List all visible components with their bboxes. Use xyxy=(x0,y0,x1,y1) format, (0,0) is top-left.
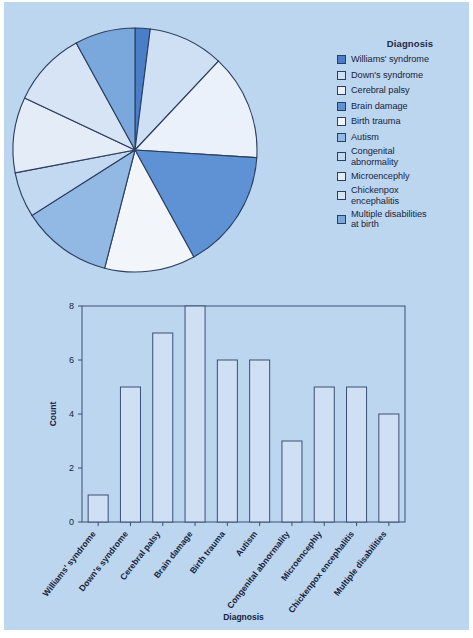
y-tick-label: 2 xyxy=(69,463,74,473)
x-tick-label: Williams' syndrome xyxy=(40,529,97,599)
bar[interactable] xyxy=(185,306,205,522)
bar-svg: 02468CountWilliams' syndromeDown's syndr… xyxy=(34,294,454,624)
legend-item-list: Williams' syndromeDown's syndromeCerebra… xyxy=(337,53,469,230)
legend-swatch-icon xyxy=(337,86,346,95)
bar[interactable] xyxy=(250,360,270,522)
pie-chart xyxy=(4,2,274,302)
x-tick-label: Congenital abnormality xyxy=(225,529,292,611)
legend-item-label: Multiple disabilities at birth xyxy=(351,209,427,230)
bar[interactable] xyxy=(153,333,173,522)
legend-swatch-icon xyxy=(337,117,346,126)
legend-item-label: Down's syndrome xyxy=(351,70,423,81)
legend-item-label: Microencephly xyxy=(351,171,410,182)
legend-item[interactable]: Chickenpox encephalitis xyxy=(337,185,469,206)
legend-item[interactable]: Cerebral palsy xyxy=(337,84,469,97)
legend-swatch-icon xyxy=(337,152,346,161)
figure-panel: Diagnosis Williams' syndromeDown's syndr… xyxy=(4,2,469,630)
pie-slice-group xyxy=(13,28,257,272)
legend-item-label: Brain damage xyxy=(351,101,408,112)
legend-item-label: Autism xyxy=(351,132,379,143)
legend-swatch-icon xyxy=(337,71,346,80)
y-tick-label: 6 xyxy=(69,355,74,365)
y-tick-label: 8 xyxy=(69,301,74,311)
legend-item-label: Birth trauma xyxy=(351,116,400,127)
x-axis-title: Diagnosis xyxy=(223,612,264,622)
x-tick-label: Chickenpox encephalitis xyxy=(286,529,356,615)
legend-swatch-icon xyxy=(337,55,346,64)
legend-item-label: Williams' syndrome xyxy=(351,54,429,65)
legend-item[interactable]: Multiple disabilities at birth xyxy=(337,209,469,230)
legend-swatch-icon xyxy=(337,102,346,111)
legend-item-label: Chickenpox encephalitis xyxy=(351,185,399,206)
bar[interactable] xyxy=(347,387,367,522)
legend: Diagnosis Williams' syndromeDown's syndr… xyxy=(337,38,469,232)
y-tick-label: 4 xyxy=(69,409,74,419)
legend-swatch-icon xyxy=(337,215,346,224)
legend-item[interactable]: Williams' syndrome xyxy=(337,53,469,66)
legend-item[interactable]: Microencephly xyxy=(337,170,469,183)
legend-swatch-icon xyxy=(337,191,346,200)
bar[interactable] xyxy=(379,414,399,522)
legend-swatch-icon xyxy=(337,172,346,181)
bar-plot-group: 02468CountWilliams' syndromeDown's syndr… xyxy=(40,301,405,622)
bar[interactable] xyxy=(217,360,237,522)
legend-item-label: Congenital abnormality xyxy=(351,146,398,167)
legend-swatch-icon xyxy=(337,133,346,142)
y-tick-label: 0 xyxy=(69,517,74,527)
bar[interactable] xyxy=(314,387,334,522)
legend-item-label: Cerebral palsy xyxy=(351,85,410,96)
bar-chart: 02468CountWilliams' syndromeDown's syndr… xyxy=(34,294,454,624)
x-tick-label: Autism xyxy=(233,529,259,558)
bar[interactable] xyxy=(88,495,108,522)
legend-item[interactable]: Congenital abnormality xyxy=(337,146,469,167)
legend-item[interactable]: Down's syndrome xyxy=(337,69,469,82)
pie-svg xyxy=(4,2,274,302)
bar[interactable] xyxy=(120,387,140,522)
legend-item[interactable]: Birth trauma xyxy=(337,115,469,128)
bar[interactable] xyxy=(282,441,302,522)
y-axis-title: Count xyxy=(48,402,58,427)
legend-title: Diagnosis xyxy=(351,38,469,49)
legend-item[interactable]: Brain damage xyxy=(337,100,469,113)
legend-item[interactable]: Autism xyxy=(337,131,469,144)
